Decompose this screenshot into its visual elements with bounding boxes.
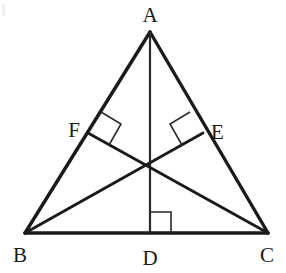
segment-ac [150,32,268,233]
vertex-label-d: D [142,246,157,270]
triangle-diagram-canvas: A B C D E F [0,0,286,273]
vertex-label-a: A [142,3,158,27]
right-angle-mark-f [101,112,121,145]
geometry-figure: A B C D E F [0,0,286,273]
right-angle-mark-e [170,112,190,145]
vertex-label-b: B [13,243,27,267]
right-angle-mark-d [150,212,171,233]
vertex-label-f: F [68,118,80,142]
vertex-label-c: C [260,243,274,267]
vertex-label-e: E [211,120,224,144]
